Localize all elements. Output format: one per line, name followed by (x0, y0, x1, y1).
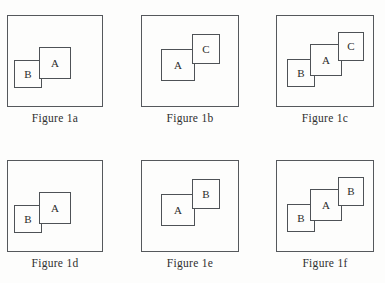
box-label: B (297, 213, 305, 224)
box-label: C (202, 44, 210, 55)
box-figure-1f-3: B (338, 177, 364, 206)
figure-sheet: BAFigure 1aACFigure 1bBACFigure 1cBAFigu… (0, 0, 385, 283)
caption-figure-1d: Figure 1d (7, 257, 103, 269)
caption-figure-1e: Figure 1e (141, 257, 239, 269)
panel-figure-1b: ACFigure 1b (141, 15, 239, 128)
box-label: A (51, 58, 59, 69)
box-label: B (24, 214, 32, 225)
panel-frame-figure-1a: BA (7, 15, 103, 107)
caption-figure-1a: Figure 1a (7, 112, 103, 124)
box-figure-1d-1: B (14, 205, 42, 233)
box-figure-1b-2: C (192, 34, 220, 64)
box-label: A (322, 200, 330, 211)
box-figure-1a-1: B (14, 60, 42, 88)
panel-frame-figure-1e: AB (141, 160, 239, 252)
panel-frame-figure-1f: BAB (276, 160, 374, 252)
panel-figure-1e: ABFigure 1e (141, 160, 239, 273)
caption-figure-1f: Figure 1f (276, 257, 374, 269)
caption-figure-1c: Figure 1c (276, 112, 374, 124)
panel-frame-figure-1d: BA (7, 160, 103, 252)
box-figure-1d-2: A (39, 192, 71, 224)
box-figure-1a-2: A (39, 47, 71, 79)
box-figure-1c-3: C (338, 32, 364, 61)
box-label: B (347, 186, 355, 197)
box-label: C (347, 41, 355, 52)
box-figure-1b-1: A (161, 49, 195, 81)
box-figure-1e-2: B (192, 179, 220, 209)
panel-figure-1f: BABFigure 1f (276, 160, 374, 273)
box-label: A (51, 203, 59, 214)
box-label: A (322, 55, 330, 66)
caption-figure-1b: Figure 1b (141, 112, 239, 124)
panel-frame-figure-1b: AC (141, 15, 239, 107)
panel-figure-1c: BACFigure 1c (276, 15, 374, 128)
panel-figure-1a: BAFigure 1a (7, 15, 103, 128)
panel-frame-figure-1c: BAC (276, 15, 374, 107)
box-figure-1e-1: A (161, 194, 195, 226)
box-label: B (297, 68, 305, 79)
box-label: B (202, 189, 210, 200)
box-label: A (174, 205, 182, 216)
box-label: A (174, 60, 182, 71)
box-label: B (24, 69, 32, 80)
panel-figure-1d: BAFigure 1d (7, 160, 103, 273)
